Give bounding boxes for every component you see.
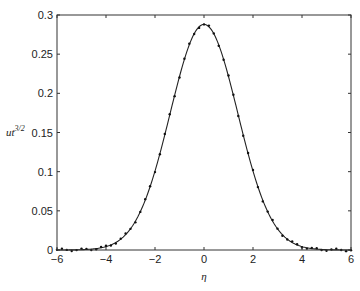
data-point (267, 210, 269, 212)
x-tick-label: 2 (250, 253, 256, 265)
data-point (281, 235, 283, 237)
y-tick-label: 0.05 (32, 205, 53, 217)
data-point (286, 238, 288, 240)
data-point (252, 169, 254, 171)
x-axis-label: η (201, 270, 206, 282)
plot-area (56, 23, 352, 252)
x-tick-label: −4 (100, 253, 113, 265)
data-point (227, 74, 229, 76)
data-point (276, 227, 278, 229)
data-point (149, 185, 151, 187)
data-point (257, 186, 259, 188)
data-point (154, 171, 156, 173)
analytic-curve (57, 24, 351, 250)
data-point (208, 24, 210, 26)
data-point (296, 243, 298, 245)
y-axis-label-exponent: 3/2 (14, 124, 25, 133)
data-point (271, 219, 273, 221)
data-point (139, 211, 141, 213)
data-point (159, 153, 161, 155)
y-tick-label: 0.2 (38, 87, 53, 99)
data-point (100, 246, 102, 248)
data-point (134, 221, 136, 223)
data-point (198, 27, 200, 29)
data-point (124, 232, 126, 234)
y-tick-label: 0.3 (38, 9, 53, 21)
data-point (203, 23, 205, 25)
chart: −6−4−20246 00.050.10.150.20.250.3 η ut3/… (0, 0, 360, 291)
data-point (115, 242, 117, 244)
data-point (105, 244, 107, 246)
data-point (178, 76, 180, 78)
data-point (291, 240, 293, 242)
data-point (183, 58, 185, 60)
data-point (237, 115, 239, 117)
data-point (80, 247, 82, 249)
y-tick-label: 0 (47, 244, 53, 256)
data-point (120, 238, 122, 240)
data-point (188, 42, 190, 44)
data-point (247, 152, 249, 154)
data-point (311, 247, 313, 249)
axes-box (57, 15, 351, 250)
x-tick-label: 0 (201, 253, 207, 265)
data-point (110, 244, 112, 246)
x-tick-label: 4 (299, 253, 305, 265)
data-point (173, 95, 175, 97)
x-axis-ticks: −6−4−20246 (51, 15, 354, 265)
data-point (218, 45, 220, 47)
data-point (262, 200, 264, 202)
x-tick-label: 6 (348, 253, 354, 265)
data-point (129, 228, 131, 230)
data-point (316, 247, 318, 249)
y-tick-label: 0.25 (32, 48, 53, 60)
x-tick-label: −2 (149, 253, 162, 265)
data-point (306, 247, 308, 249)
y-tick-label: 0.1 (38, 166, 53, 178)
data-point (242, 135, 244, 137)
data-point (193, 33, 195, 35)
data-point (232, 94, 234, 96)
y-axis-label: ut3/2 (6, 124, 25, 138)
data-point (213, 32, 215, 34)
y-tick-label: 0.15 (32, 127, 53, 139)
data-point (164, 133, 166, 135)
data-point (169, 113, 171, 115)
data-point (222, 59, 224, 61)
data-point (144, 198, 146, 200)
y-axis-ticks: 00.050.10.150.20.250.3 (32, 9, 351, 256)
